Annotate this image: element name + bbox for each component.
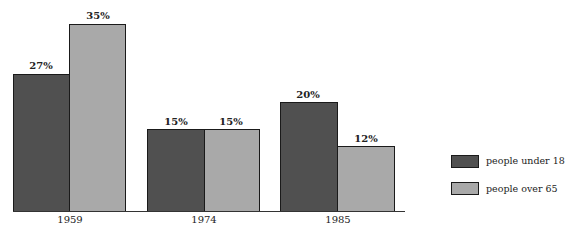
value-label-1959-under-18: 27% [11,60,71,71]
value-label-1959-over-65: 35% [68,10,128,21]
bar-1959-under-18 [13,74,70,212]
value-label-1974-over-65: 15% [201,116,261,127]
category-label-1974: 1974 [164,214,244,225]
bar-1959-over-65 [69,24,126,212]
x-axis-line [13,211,405,212]
bar-1985-under-18 [280,102,338,212]
bar-1974-over-65 [204,129,260,212]
legend-label-under-18: people under 18 [486,155,565,166]
legend-swatch-under-18 [451,155,479,168]
category-label-1985: 1985 [298,214,378,225]
category-label-1959: 1959 [30,214,110,225]
value-label-1974-under-18: 15% [146,116,206,127]
value-label-1985-over-65: 12% [336,133,396,144]
bar-1974-under-18 [147,129,205,212]
value-label-1985-under-18: 20% [278,89,338,100]
bar-1985-over-65 [337,146,395,212]
legend-swatch-over-65 [451,182,479,195]
legend-label-over-65: people over 65 [486,183,558,194]
